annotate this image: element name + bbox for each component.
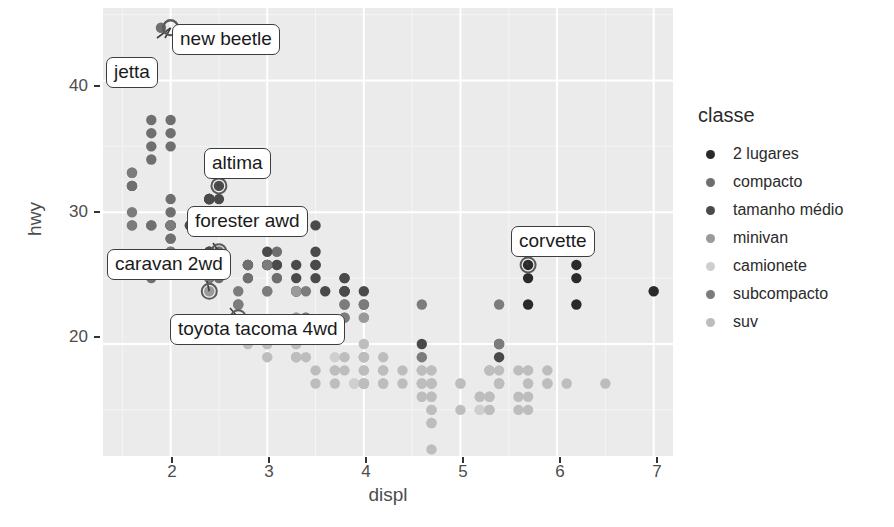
legend-key-icon <box>697 318 723 327</box>
legend-item-label: suv <box>733 313 758 331</box>
x-tick-label: 5 <box>443 462 483 482</box>
annotation-label-toyota-tacoma-4wd: toyota tacoma 4wd <box>170 314 345 345</box>
legend-item-label: minivan <box>733 229 788 247</box>
y-axis-title: hwy <box>24 179 46 259</box>
annotation-label-new-beetle: new beetle <box>172 24 280 55</box>
legend-item-tamanho-medio[interactable]: tamanho médio <box>697 196 887 224</box>
x-axis-title: displ <box>103 484 673 506</box>
x-tick-label: 6 <box>540 462 580 482</box>
y-tick-mark <box>94 211 100 213</box>
y-tick-mark <box>94 336 100 338</box>
legend-item-label: subcompacto <box>733 285 828 303</box>
legend-key-icon <box>697 150 723 159</box>
x-tick-label: 4 <box>346 462 386 482</box>
legend-item-minivan[interactable]: minivan <box>697 224 887 252</box>
y-tick-label: 20 <box>44 327 88 347</box>
x-tick-label: 3 <box>249 462 289 482</box>
scatter-plot-figure: 40 30 20 hwy 2 3 4 5 6 7 displ jetta new… <box>0 0 894 527</box>
legend-key-icon <box>697 206 723 215</box>
legend-title: classe <box>698 104 887 127</box>
annotation-label-caravan-2wd: caravan 2wd <box>107 249 231 280</box>
y-tick-label: 40 <box>44 76 88 96</box>
legend-item-suv[interactable]: suv <box>697 308 887 336</box>
legend: classe 2 lugares compacto tamanho médio … <box>697 104 887 336</box>
annotation-label-jetta: jetta <box>106 57 158 88</box>
legend-key-icon <box>697 290 723 299</box>
x-tick-label: 7 <box>637 462 677 482</box>
legend-item-camionete[interactable]: camionete <box>697 252 887 280</box>
y-tick-label: 30 <box>44 202 88 222</box>
legend-item-label: tamanho médio <box>733 201 843 219</box>
legend-key-icon <box>697 234 723 243</box>
legend-item-label: camionete <box>733 257 807 275</box>
legend-item-label: 2 lugares <box>733 145 799 163</box>
annotation-label-forester-awd: forester awd <box>187 206 308 237</box>
legend-key-icon <box>697 178 723 187</box>
y-tick-mark <box>94 85 100 87</box>
legend-item-label: compacto <box>733 173 802 191</box>
legend-item-subcompacto[interactable]: subcompacto <box>697 280 887 308</box>
annotation-label-corvette: corvette <box>511 226 595 257</box>
legend-key-icon <box>697 262 723 271</box>
x-tick-label: 2 <box>152 462 192 482</box>
annotation-label-altima: altima <box>204 148 271 179</box>
legend-item-compacto[interactable]: compacto <box>697 168 887 196</box>
legend-item-2-lugares[interactable]: 2 lugares <box>697 140 887 168</box>
